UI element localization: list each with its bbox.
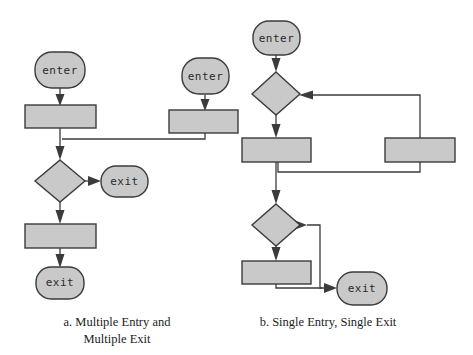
arrowhead-b-to-exit [324,283,337,293]
node-a-enter-2-label: enter [188,70,224,83]
process-shape [242,261,311,284]
node-a-process-1[interactable] [25,105,96,128]
process-shape [385,138,455,162]
decision-shape [252,204,300,246]
figure-root: enter enter [0,0,473,355]
node-a-exit-bottom-label: exit [46,276,75,289]
process-shape [25,105,96,128]
arrowhead-a-proc3-to-exit2 [56,254,65,268]
arrowhead-b-enter-to-decision1 [272,58,281,72]
flowchart-canvas: enter enter [0,0,473,355]
node-b-process-left[interactable] [242,138,311,162]
node-a-process-3[interactable] [25,224,96,248]
node-a-process-2[interactable] [169,110,238,133]
node-b-decision-2[interactable] [252,204,300,246]
node-b-process-bottom[interactable] [242,261,311,284]
edge-a-proc2-to-decision1 [62,133,205,139]
node-b-enter-label: enter [259,32,295,45]
arrowhead-b-decision2-to-procbottom [272,247,281,261]
node-b-enter[interactable]: enter [253,21,300,55]
caption-diagram-a: a. Multiple Entry and Multiple Exit [22,314,212,347]
node-a-exit-side-label: exit [110,175,139,188]
node-b-exit[interactable]: exit [337,272,387,305]
node-b-decision-1[interactable] [252,72,300,115]
process-shape [242,138,311,162]
arrowhead-a-decision1-to-exit1 [88,176,101,186]
arrowhead-a-enter2-to-proc2 [201,99,210,111]
node-b-exit-label: exit [348,282,377,295]
arrowhead-a-proc1-to-decision1 [56,146,65,160]
caption-diagram-b: b. Single Entry, Single Exit [228,314,428,331]
node-b-process-right[interactable] [385,138,455,162]
node-a-enter-1[interactable]: enter [35,52,85,88]
arrowhead-a-enter1-to-proc1 [56,94,65,106]
process-shape [169,110,238,133]
node-a-decision-1[interactable] [35,160,85,202]
arrowhead-b-decision1-to-procleft [272,124,281,138]
decision-shape [252,72,300,115]
node-a-exit-bottom[interactable]: exit [36,267,84,299]
node-a-enter-1-label: enter [42,64,78,77]
node-a-exit-side[interactable]: exit [101,166,148,197]
arrowhead-a-decision1-to-proc3 [56,210,65,224]
decision-shape [35,160,85,202]
process-shape [25,224,96,248]
diagram-b-group: enter [242,21,455,305]
node-a-enter-2[interactable]: enter [182,58,229,94]
arrowhead-b-procleft-to-decision2 [272,190,281,204]
arrowhead-b-procright-to-decision1 [299,91,313,100]
diagram-a-group: enter enter [25,52,238,299]
